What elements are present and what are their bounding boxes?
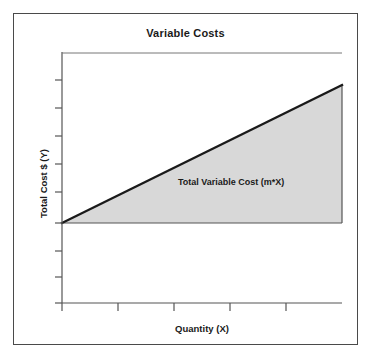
chart-figure: Variable Costs	[0, 0, 372, 358]
y-axis-label: Total Cost $ (Y)	[38, 124, 49, 244]
x-axis-ticks	[62, 303, 286, 311]
variable-cost-annotation: Total Variable Cost (m*X)	[178, 177, 284, 187]
y-axis-ticks	[55, 80, 62, 303]
x-axis-label: Quantity (X)	[62, 323, 342, 334]
